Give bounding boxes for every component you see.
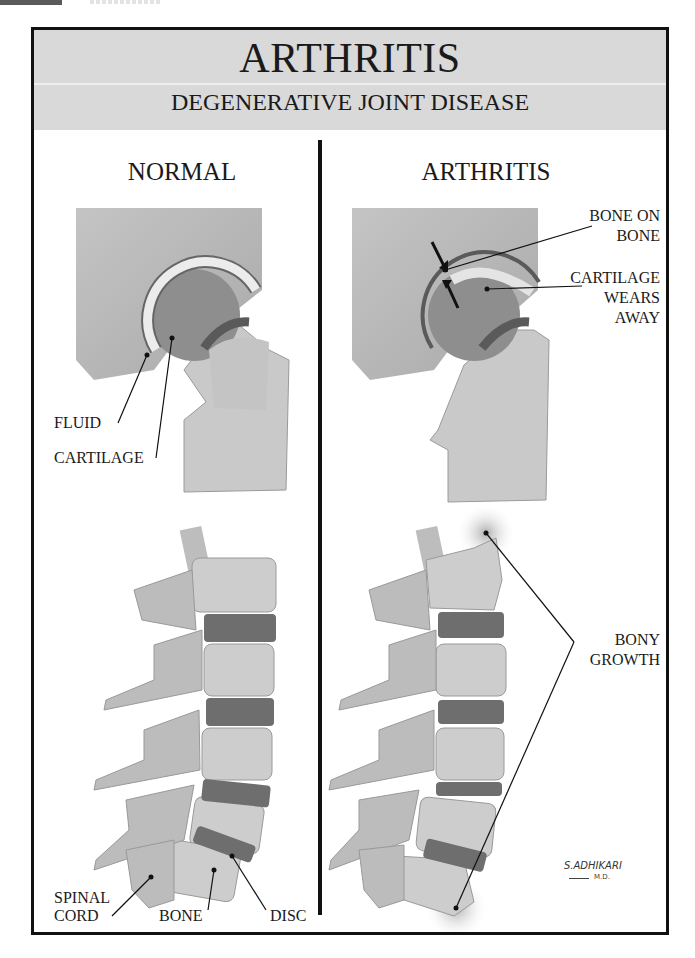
label-spinal-cord-1: SPINAL <box>54 888 110 908</box>
label-bony-growth-2: GROWTH <box>590 650 660 670</box>
label-cartilage-wears-3: AWAY <box>615 308 660 328</box>
label-cartilage-wears-1: CARTILAGE <box>570 268 660 288</box>
figure-frame: ARTHRITIS DEGENERATIVE JOINT DISEASE NOR… <box>31 27 669 935</box>
label-fluid: FLUID <box>54 413 101 433</box>
signature-underline <box>569 878 589 879</box>
label-bone: BONE <box>159 906 203 926</box>
label-disc: DISC <box>270 906 306 926</box>
arthritis-hip-illustration <box>352 208 592 502</box>
artist-signature: S.ADHIKARI <box>564 860 622 871</box>
illustrations <box>34 30 666 932</box>
label-cartilage: CARTILAGE <box>54 448 144 468</box>
normal-spine-illustration <box>94 526 276 916</box>
artist-credential: M.D. <box>594 873 610 881</box>
label-cartilage-wears-2: WEARS <box>604 288 660 308</box>
cropped-page-strip <box>0 0 62 5</box>
cropped-page-text <box>90 0 160 4</box>
label-spinal-cord-2: CORD <box>54 906 98 926</box>
arthritis-spine-illustration <box>329 503 574 932</box>
label-bone-on-bone-1: BONE ON <box>589 206 660 226</box>
label-bony-growth-1: BONY <box>615 630 660 650</box>
label-bone-on-bone-2: BONE <box>616 226 660 246</box>
